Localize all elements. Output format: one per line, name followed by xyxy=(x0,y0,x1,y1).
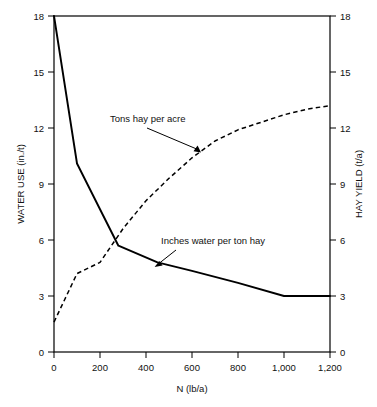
annotation-label: Tons hay per acre xyxy=(110,113,186,124)
plot-frame xyxy=(54,16,330,352)
x-tick-label: 600 xyxy=(184,362,200,373)
left-tick-label: 18 xyxy=(33,11,44,22)
series-tons-hay-per-acre xyxy=(54,106,330,323)
x-tick-label: 0 xyxy=(51,362,56,373)
right-tick-label: 18 xyxy=(340,11,351,22)
x-axis-tick-labels: 0 200 400 600 800 1,000 1,200 xyxy=(51,362,342,373)
chart-canvas: 18 15 12 9 6 3 0 18 15 12 9 6 3 0 xyxy=(0,0,377,407)
x-tick-label: 400 xyxy=(138,362,154,373)
y-axis-title: WATER USE (in./t) xyxy=(15,144,26,224)
x-axis-ticks xyxy=(54,352,330,358)
x-tick-label: 1,000 xyxy=(272,362,296,373)
right-axis-ticks xyxy=(330,16,336,352)
y2-axis-title: HAY YIELD (t/a) xyxy=(353,150,364,218)
chart-figure: 18 15 12 9 6 3 0 18 15 12 9 6 3 0 xyxy=(0,0,377,407)
annotation-label: Inches water per ton hay xyxy=(161,235,265,246)
arrowhead-icon xyxy=(194,146,202,153)
right-tick-label: 12 xyxy=(340,123,351,134)
left-tick-label: 12 xyxy=(33,123,44,134)
x-tick-label: 800 xyxy=(230,362,246,373)
right-tick-label: 3 xyxy=(340,291,345,302)
annotation-tons-hay-per-acre: Tons hay per acre xyxy=(110,113,186,124)
left-tick-label: 6 xyxy=(39,235,44,246)
right-tick-label: 15 xyxy=(340,67,351,78)
series-inches-water-per-ton-hay xyxy=(54,16,330,296)
left-tick-label: 3 xyxy=(39,291,44,302)
right-tick-label: 0 xyxy=(340,347,345,358)
left-tick-label: 9 xyxy=(39,179,44,190)
left-axis-tick-labels: 18 15 12 9 6 3 0 xyxy=(33,11,44,358)
x-axis-title: N (lb/a) xyxy=(176,383,207,394)
left-tick-label: 0 xyxy=(39,347,44,358)
annotation-leader-tons-hay xyxy=(147,128,201,153)
right-tick-label: 9 xyxy=(340,179,345,190)
right-axis-tick-labels: 18 15 12 9 6 3 0 xyxy=(340,11,351,358)
left-axis-ticks xyxy=(48,16,54,352)
right-tick-label: 6 xyxy=(340,235,345,246)
x-tick-label: 200 xyxy=(92,362,108,373)
x-tick-label: 1,200 xyxy=(318,362,342,373)
annotation-inches-water-per-ton-hay: Inches water per ton hay xyxy=(161,235,265,246)
left-tick-label: 15 xyxy=(33,67,44,78)
